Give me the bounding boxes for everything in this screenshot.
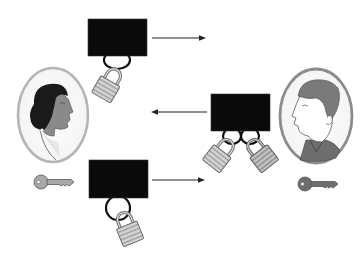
locked-box-1 [88, 19, 147, 56]
step-2-group [151, 94, 279, 173]
arrow-right-icon [152, 177, 205, 182]
bob-portrait [280, 69, 352, 163]
step-3-group [89, 160, 205, 247]
locked-box-2 [211, 94, 270, 131]
bob-key-icon [298, 177, 338, 191]
alice-portrait [18, 68, 88, 162]
step-1-group [88, 19, 206, 103]
alice-key-icon [34, 175, 74, 189]
alice-padlock-icon [91, 64, 126, 103]
bob-padlock-icon [242, 134, 279, 173]
bob-padlock-icon [112, 209, 144, 247]
double-padlock-diagram [0, 0, 362, 261]
alice-padlock-icon [202, 134, 239, 173]
locked-box-3 [89, 160, 148, 198]
arrow-left-icon [151, 109, 207, 114]
arrow-right-icon [152, 35, 206, 40]
